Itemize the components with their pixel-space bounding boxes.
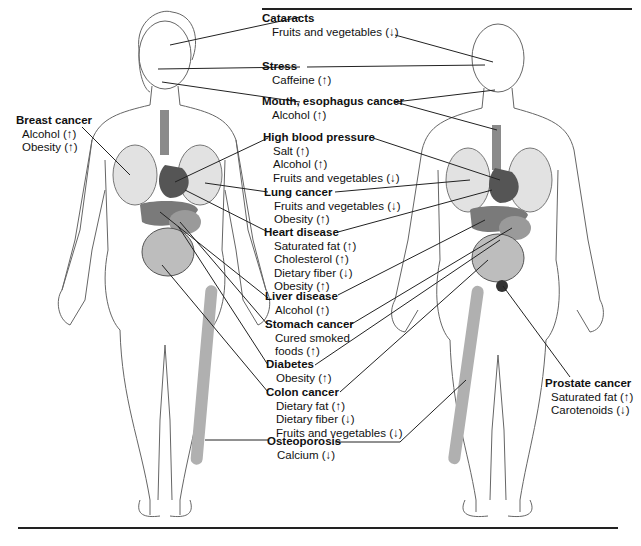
label-title: Prostate cancer (545, 377, 633, 391)
label-factor: Alcohol (↑) (262, 109, 404, 123)
leader-mouth-male1 (395, 90, 495, 102)
male-organs (446, 125, 552, 465)
label-factor: Calcium (↓) (267, 449, 341, 463)
label-factor: Cured smoked (265, 332, 354, 346)
label-prostate-cancer: Prostate cancer Saturated fat (↑) Carote… (545, 377, 633, 418)
label-factor: Cholesterol (↑) (264, 253, 356, 267)
label-stomach-cancer: Stomach cancer Cured smoked foods (↑) (265, 318, 354, 359)
label-title: Heart disease (264, 226, 356, 240)
label-title: Liver disease (265, 290, 338, 304)
female-head (139, 21, 191, 89)
label-title: Mouth, esophagus cancer (262, 95, 404, 109)
label-title: Lung cancer (264, 186, 401, 200)
female-left-arm (58, 140, 105, 325)
label-title: Osteoporosis (267, 435, 341, 449)
label-osteoporosis: Osteoporosis Calcium (↓) (267, 435, 341, 462)
label-factor: Saturated fat (↑) (264, 240, 356, 254)
label-factor: Caffeine (↑) (262, 74, 331, 88)
label-title: Colon cancer (266, 386, 403, 400)
leader-stomach-female (180, 222, 268, 325)
label-lung-cancer: Lung cancer Fruits and vegetables (↓) Ob… (264, 186, 401, 227)
female-femur (190, 285, 218, 465)
male-trachea (492, 125, 501, 170)
label-factor: Alcohol (↑) (16, 128, 92, 142)
male-femur (448, 285, 485, 465)
label-factor: Saturated fat (↑) (545, 391, 633, 405)
female-intestines (142, 228, 194, 276)
label-mouth-esophagus-cancer: Mouth, esophagus cancer Alcohol (↑) (262, 95, 404, 122)
label-title: Diabetes (266, 358, 332, 372)
male-right-leg (498, 340, 546, 512)
label-factor: Obesity (↑) (16, 141, 92, 155)
label-factor: Fruits and vegetables (↓) (263, 172, 400, 186)
female-organs (113, 110, 222, 465)
label-factor: Carotenoids (↓) (545, 404, 633, 418)
female-feet (139, 500, 192, 517)
label-factor: Alcohol (↑) (263, 158, 400, 172)
label-colon-cancer: Colon cancer Dietary fat (↑) Dietary fib… (266, 386, 403, 440)
label-liver-disease: Liver disease Alcohol (↑) (265, 290, 338, 317)
label-factor: Dietary fiber (↓) (264, 267, 356, 281)
male-right-arm (577, 300, 603, 332)
female-left-lung (113, 145, 157, 205)
label-factor: Fruits and vegetables (↓) (264, 200, 401, 214)
label-factor: Dietary fiber (↓) (266, 413, 403, 427)
label-factor: Alcohol (↑) (265, 304, 338, 318)
male-feet (463, 500, 532, 517)
label-factor: Salt (↑) (263, 145, 400, 159)
label-factor: foods (↑) (265, 345, 354, 359)
label-title: Stomach cancer (265, 318, 354, 332)
leader-cataracts-male (395, 35, 493, 62)
label-title: Stress (262, 60, 331, 74)
label-breast-cancer: Breast cancer Alcohol (↑) Obesity (↑) (16, 114, 92, 155)
female-left-leg (120, 330, 165, 515)
leader-stress-male (307, 65, 485, 67)
label-title: High blood pressure (263, 131, 400, 145)
label-stress: Stress Caffeine (↑) (262, 60, 331, 87)
label-factor: Obesity (↑) (266, 372, 332, 386)
label-factor: Dietary fat (↑) (266, 400, 403, 414)
label-diabetes: Diabetes Obesity (↑) (266, 358, 332, 385)
label-cataracts: Cataracts Fruits and vegetables (↓) (262, 12, 399, 39)
label-heart-disease: Heart disease Saturated fat (↑) Choleste… (264, 226, 356, 294)
label-title: Breast cancer (16, 114, 92, 128)
label-factor: Fruits and vegetables (↓) (262, 26, 399, 40)
label-title: Cataracts (262, 12, 399, 26)
label-factor: Obesity (↑) (264, 213, 401, 227)
leader-prostate (503, 286, 570, 377)
label-high-blood-pressure: High blood pressure Salt (↑) Alcohol (↑)… (263, 131, 400, 185)
female-trachea (160, 110, 169, 155)
